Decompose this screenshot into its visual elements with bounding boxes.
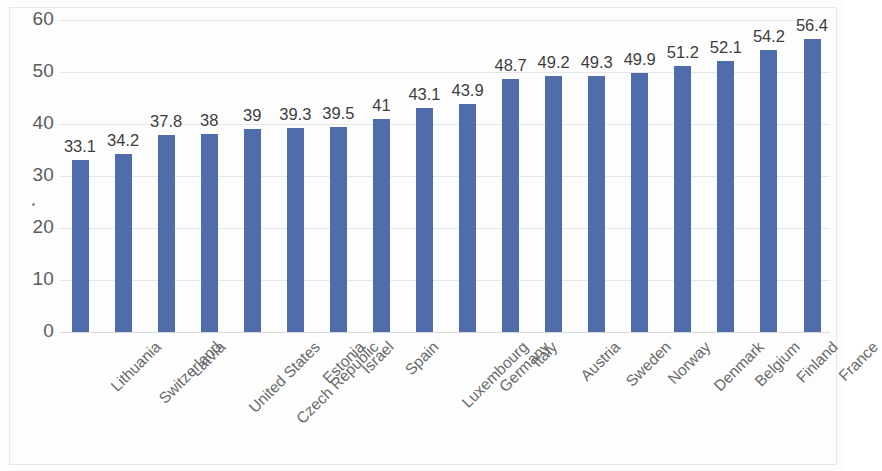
gridline-60 [60, 20, 830, 21]
bar[interactable] [804, 39, 821, 332]
gridline-30 [60, 176, 830, 177]
y-axis-tick-label: 50 [10, 60, 54, 82]
bar[interactable] [330, 127, 347, 332]
bar[interactable] [545, 76, 562, 332]
bar-column[interactable]: 37.8 [158, 20, 175, 332]
plot-area: 33.134.237.8383939.339.54143.143.948.749… [60, 20, 830, 332]
y-axis-tick-label: 60 [10, 8, 54, 30]
bar-column[interactable]: 51.2 [674, 20, 691, 332]
bar-column[interactable]: 39.3 [287, 20, 304, 332]
x-axis-category-label: Spain [402, 338, 443, 379]
y-axis-tick-label: 40 [10, 112, 54, 134]
bar-column[interactable]: 49.2 [545, 20, 562, 332]
gridline-10 [60, 280, 830, 281]
gridline-50 [60, 72, 830, 73]
bar-column[interactable]: 34.2 [115, 20, 132, 332]
bar[interactable] [287, 128, 304, 332]
x-axis-category-label: Latvia [187, 338, 229, 380]
bar-column[interactable]: 41 [373, 20, 390, 332]
y-axis-tick-label: 10 [10, 268, 54, 290]
y-axis: 6050403020100 [0, 20, 54, 332]
bar-value-label: 56.4 [782, 16, 842, 35]
gridline-20 [60, 228, 830, 229]
x-axis-category-label: Norway [664, 338, 714, 388]
bar[interactable] [416, 108, 433, 332]
bar-column[interactable]: 49.9 [631, 20, 648, 332]
bar-column[interactable]: 54.2 [760, 20, 777, 332]
bar[interactable] [674, 66, 691, 332]
bar[interactable] [631, 73, 648, 332]
bar[interactable] [72, 160, 89, 332]
bar-column[interactable]: 38 [201, 20, 218, 332]
x-axis-category-label: France [835, 338, 882, 385]
x-axis-category-label: Finland [793, 338, 842, 387]
y-axis-tick-label: 0 [10, 320, 54, 342]
bar-value-label: 34.2 [93, 131, 153, 150]
y-axis-tick-label: 20 [10, 216, 54, 238]
bar-column[interactable]: 56.4 [804, 20, 821, 332]
bar-column[interactable]: 39.5 [330, 20, 347, 332]
scan-speck-artifact [32, 203, 35, 206]
x-axis-category-label: Denmark [710, 338, 767, 395]
bar-value-label: 43.9 [438, 81, 498, 100]
bar-column[interactable]: 48.7 [502, 20, 519, 332]
x-axis-category-label: Austria [577, 338, 624, 385]
bar[interactable] [502, 79, 519, 332]
y-axis-tick-label: 30 [10, 164, 54, 186]
bar[interactable] [115, 154, 132, 332]
bar-column[interactable]: 43.9 [459, 20, 476, 332]
bar-column[interactable]: 43.1 [416, 20, 433, 332]
bar[interactable] [760, 50, 777, 332]
bar-column[interactable]: 49.3 [588, 20, 605, 332]
bar-column[interactable]: 52.1 [717, 20, 734, 332]
bar[interactable] [459, 104, 476, 332]
bar-column[interactable]: 39 [244, 20, 261, 332]
bar[interactable] [588, 76, 605, 332]
bar[interactable] [373, 119, 390, 332]
bar[interactable] [201, 134, 218, 332]
bar[interactable] [244, 129, 261, 332]
bar[interactable] [158, 135, 175, 332]
x-axis-category-label: Lithuania [107, 338, 164, 395]
bar-column[interactable]: 33.1 [72, 20, 89, 332]
bar[interactable] [717, 61, 734, 332]
x-axis-category-labels: LithuaniaSwitzerlandLatviaUnited StatesC… [60, 332, 830, 452]
x-axis-category-label: Sweden [622, 338, 674, 390]
